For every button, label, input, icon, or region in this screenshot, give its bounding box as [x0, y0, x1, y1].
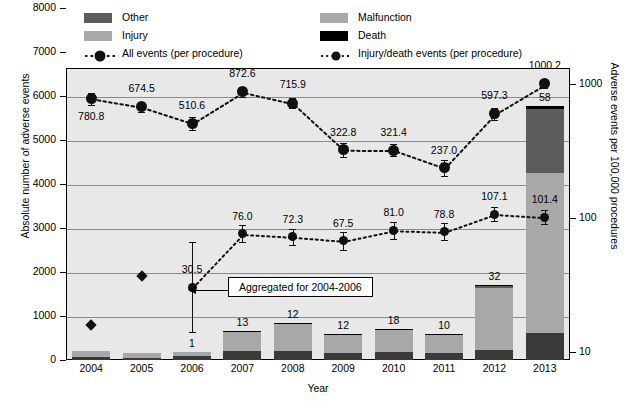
- bar-segment-injury: [72, 357, 110, 360]
- bar-stack[interactable]: [526, 106, 564, 360]
- y-axis-right-tick-label: 100: [579, 211, 597, 223]
- gridline: [67, 141, 569, 142]
- bar-stack[interactable]: [274, 323, 312, 360]
- error-bar-cap: [441, 240, 448, 241]
- legend-swatch: [84, 13, 112, 23]
- data-point-label: 67.5: [309, 217, 377, 229]
- annotation-box: Aggregated for 2004-2006: [228, 277, 373, 297]
- bar-segment-death: [475, 285, 513, 286]
- data-point-marker[interactable]: [388, 145, 399, 156]
- data-point-marker[interactable]: [440, 227, 449, 236]
- bar-stack[interactable]: [475, 285, 513, 360]
- y-axis-left-tick: [60, 316, 66, 317]
- bar-segment-injury: [123, 358, 161, 360]
- y-axis-left-tick: [60, 140, 66, 141]
- bar-segment-death: [223, 331, 261, 332]
- data-point-label: 780.8: [57, 110, 125, 122]
- bar-segment-injury: [526, 333, 564, 360]
- bar-stack[interactable]: [173, 352, 211, 360]
- y-axis-left-tick: [60, 184, 66, 185]
- x-axis-tick-label: 2013: [515, 362, 575, 374]
- data-point-label: 872.6: [208, 67, 276, 79]
- data-point-marker[interactable]: [540, 213, 549, 222]
- data-point-marker[interactable]: [389, 226, 398, 235]
- bar-stack[interactable]: [223, 331, 261, 360]
- data-point-marker[interactable]: [86, 93, 97, 104]
- y-axis-left-tick-label: 3000: [0, 221, 56, 233]
- bar-segment-malfunction: [274, 323, 312, 350]
- bar-segment-malfunction: [375, 330, 413, 352]
- legend-marker-icon: [320, 48, 352, 60]
- bar-segment-injury: [173, 356, 211, 360]
- error-bar-cap: [441, 160, 448, 161]
- error-bar-cap: [390, 156, 397, 157]
- y-axis-right-tick: [570, 84, 576, 85]
- bar-segment-injury: [274, 351, 312, 360]
- y-axis-right-tick-label: 10: [579, 345, 591, 357]
- bar-stack[interactable]: [72, 351, 110, 360]
- legend-swatch: [84, 31, 112, 41]
- data-point-label: 674.5: [108, 82, 176, 94]
- bar-segment-malfunction: [72, 351, 110, 357]
- bar-segment-malfunction: [223, 331, 261, 351]
- bar-value-label: 32: [464, 270, 524, 282]
- y-axis-left-tick-label: 7000: [0, 45, 56, 57]
- error-bar-cap: [491, 207, 498, 208]
- bar-segment-death: [526, 106, 564, 109]
- data-point-label: 597.3: [460, 89, 528, 101]
- y-axis-left-tick-label: 0: [0, 353, 56, 365]
- y-axis-right-tick-label: 1000: [579, 77, 602, 89]
- x-axis-title: Year: [66, 382, 570, 394]
- bar-value-label: 10: [414, 319, 474, 331]
- bar-stack[interactable]: [375, 329, 413, 360]
- y-axis-right-tick: [570, 352, 576, 353]
- error-bar-cap: [189, 130, 196, 131]
- y-axis-left-tick-label: 6000: [0, 89, 56, 101]
- data-point-label: 715.9: [259, 78, 327, 90]
- error-bar-cap: [189, 242, 196, 243]
- bar-segment-death: [375, 329, 413, 330]
- error-bar-cap: [289, 229, 296, 230]
- bar-stack[interactable]: [425, 334, 463, 360]
- bar-segment-malfunction: [425, 335, 463, 354]
- bar-segment-malfunction: [475, 288, 513, 350]
- data-point-label: 510.6: [158, 99, 226, 111]
- error-bar-cap: [390, 239, 397, 240]
- bar-stack[interactable]: [123, 353, 161, 360]
- data-point-label: 321.4: [360, 126, 428, 138]
- chart-root: Absolute number of adverse events Advers…: [0, 0, 638, 401]
- error-bar-cap: [340, 232, 347, 233]
- error-bar-cap: [340, 157, 347, 158]
- data-point-marker[interactable]: [187, 118, 198, 129]
- y-axis-left-tick: [60, 96, 66, 97]
- y-axis-left-tick-label: 4000: [0, 177, 56, 189]
- bar-segment-malfunction: [123, 353, 161, 358]
- bar-segment-injury: [324, 353, 362, 360]
- legend-swatch: [320, 13, 348, 23]
- y-axis-left-tick-label: 8000: [0, 1, 56, 13]
- bar-segment-malfunction: [324, 335, 362, 353]
- data-point-label: 78.8: [410, 208, 478, 220]
- bar-value-label: 1: [162, 337, 222, 349]
- data-point-marker[interactable]: [490, 210, 499, 219]
- error-bar-cap: [441, 223, 448, 224]
- error-bar-cap: [239, 242, 246, 243]
- data-point-label: 101.4: [511, 193, 579, 205]
- legend-label: Injury/death events (per procedure): [358, 47, 522, 59]
- data-point-marker[interactable]: [339, 236, 348, 245]
- data-point-marker[interactable]: [338, 144, 349, 155]
- bar-value-label: 12: [263, 308, 323, 320]
- bar-segment-other: [475, 286, 513, 288]
- annotation-leader-line: [196, 290, 229, 291]
- legend-label: All events (per procedure): [122, 47, 243, 59]
- y-axis-left-tick-label: 5000: [0, 133, 56, 145]
- bar-segment-malfunction: [173, 352, 211, 357]
- data-point-marker[interactable]: [439, 162, 450, 173]
- y-axis-left-tick-label: 2000: [0, 265, 56, 277]
- error-bar-cap: [189, 332, 196, 333]
- y-axis-left-tick: [60, 228, 66, 229]
- legend-marker-icon: [84, 48, 116, 60]
- y-axis-right-tick: [570, 218, 576, 219]
- bar-stack[interactable]: [324, 334, 362, 360]
- error-bar-cap: [340, 250, 347, 251]
